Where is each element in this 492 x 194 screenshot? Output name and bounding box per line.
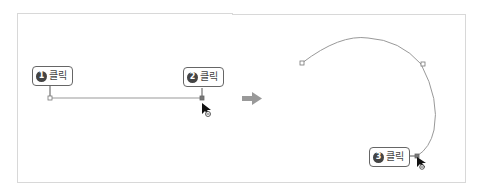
curved-path — [302, 38, 435, 156]
anchor-point-4[interactable] — [421, 62, 425, 66]
callout-label: 클릭 — [386, 152, 404, 162]
pen-cursor-icon — [202, 103, 211, 117]
step-number-badge: 2 — [187, 72, 198, 83]
callout-step-3: 3 클릭 — [369, 147, 410, 167]
step-number-badge: 1 — [36, 71, 47, 82]
callout-label: 클릭 — [200, 72, 218, 82]
right-arrow-icon — [242, 92, 262, 105]
anchor-point-3[interactable] — [300, 61, 304, 65]
anchor-point-1[interactable] — [48, 96, 52, 100]
callout-step-1: 1 클릭 — [32, 66, 73, 86]
step-number-badge: 3 — [373, 152, 384, 163]
callout-label: 클릭 — [49, 71, 67, 81]
anchor-point-2[interactable] — [200, 96, 204, 100]
diagram-canvas — [0, 0, 492, 194]
pen-cursor-icon — [417, 157, 426, 169]
callout-step-2: 2 클릭 — [183, 67, 224, 87]
